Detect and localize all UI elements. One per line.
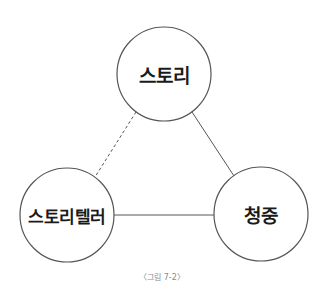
relationship-diagram [0, 0, 325, 298]
edge-story-storyteller [95, 112, 136, 177]
node-audience-label: 청중 [244, 201, 278, 228]
edge-story-audience [192, 112, 234, 176]
node-story-label: 스토리 [139, 61, 190, 88]
figure-caption: 〈그림 7-2〉 [139, 271, 185, 282]
node-storyteller-label: 스토리텔러 [28, 203, 106, 228]
